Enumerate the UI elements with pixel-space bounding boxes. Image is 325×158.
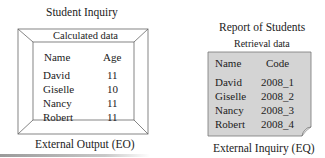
- left-row-age: 11: [107, 69, 118, 81]
- left-row-age: 10: [107, 83, 118, 95]
- calculated-data-label: Calculated data: [53, 30, 118, 41]
- screen-frame: [18, 29, 148, 134]
- report-of-students-title: Report of Students: [219, 21, 305, 33]
- right-row-name: Robert: [215, 118, 245, 130]
- student-inquiry-title: Student Inquiry: [46, 6, 118, 18]
- right-row-code: 2008_2: [261, 90, 294, 102]
- col-header-name: Name: [215, 57, 241, 69]
- right-row-name: Giselle: [215, 90, 246, 102]
- left-row-age: 11: [107, 97, 118, 109]
- right-row-code: 2008_4: [261, 118, 294, 130]
- right-row-name: David: [215, 76, 242, 88]
- col-header-age: Age: [103, 51, 121, 63]
- external-inquiry-caption: External Inquiry (EQ): [213, 142, 315, 154]
- left-row-name: Giselle: [43, 83, 74, 95]
- right-row-name: Nancy: [215, 104, 244, 116]
- left-row-name: Nancy: [43, 97, 72, 109]
- retrieval-data-label: Retrieval data: [234, 38, 290, 49]
- col-header-code: Code: [266, 57, 289, 69]
- external-output-caption: External Output (EO): [35, 138, 135, 150]
- left-row-name: Robert: [43, 111, 73, 123]
- right-row-code: 2008_1: [261, 76, 294, 88]
- col-header-name: Name: [44, 51, 70, 63]
- right-row-code: 2008_3: [261, 104, 294, 116]
- left-row-age: 11: [107, 111, 118, 123]
- bottom-divider: [0, 154, 150, 157]
- left-row-name: David: [43, 69, 70, 81]
